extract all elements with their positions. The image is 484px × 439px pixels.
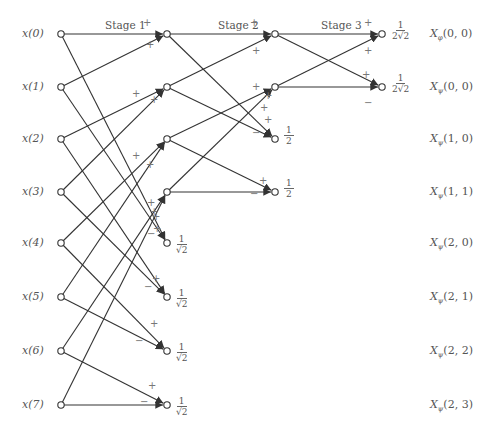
plus-sign: + <box>259 176 267 186</box>
fraction-numerator: 1 <box>396 74 406 84</box>
stage3-node-0 <box>379 31 385 37</box>
coefficient-indices: (2, 2) <box>443 344 473 357</box>
edge-s2-sum-b <box>167 36 271 87</box>
input-node-1 <box>58 84 64 90</box>
stage2-node-0 <box>272 31 278 37</box>
butterfly-diagram <box>0 0 484 439</box>
output-coefficient-label: Xφ(0, 0) <box>430 28 472 42</box>
signal-edges <box>61 34 378 405</box>
stage1-node-2 <box>164 136 170 142</box>
minus-sign: − <box>364 98 372 108</box>
stage2-node-1 <box>272 84 278 90</box>
coefficient-symbol: X <box>430 236 438 249</box>
plus-sign: + <box>264 91 272 101</box>
input-label: x(1) <box>22 81 44 92</box>
fraction-denominator: √2 <box>176 353 187 363</box>
input-node-0 <box>58 31 64 37</box>
fraction-numerator: 1 <box>177 289 187 299</box>
edge-s2-sum-b <box>167 90 272 192</box>
fraction-denominator: √2 <box>176 245 187 255</box>
stage1-node-7 <box>164 402 170 408</box>
stage2-node-2 <box>272 136 278 142</box>
input-node-5 <box>58 294 64 300</box>
fraction-numerator: 1 <box>177 343 187 353</box>
edge-s1-sum-a <box>61 89 163 139</box>
plus-sign: + <box>148 381 156 391</box>
coefficient-indices: (1, 0) <box>443 132 473 145</box>
coefficient-indices: (0, 0) <box>443 27 473 40</box>
plus-sign: + <box>250 18 258 28</box>
fraction-numerator: 1 <box>396 21 406 31</box>
stage-title: Stage 1 <box>105 20 146 31</box>
coefficient-symbol: X <box>430 80 438 93</box>
output-coefficient-label: Xψ(2, 2) <box>430 345 473 359</box>
scale-factor-inv-sqrt2: 1√2 <box>176 343 187 363</box>
plus-sign: + <box>152 274 160 284</box>
fraction-numerator: 1 <box>177 235 187 245</box>
input-label: x(5) <box>22 291 44 302</box>
minus-sign: − <box>252 128 260 138</box>
fraction-numerator: 1 <box>284 126 294 136</box>
stage1-node-0 <box>164 31 170 37</box>
fraction-denominator: 2 <box>286 136 292 146</box>
scale-factor-inv-2sqrt2: 12√2 <box>392 74 409 94</box>
coefficient-indices: (2, 1) <box>443 290 473 303</box>
input-node-4 <box>58 240 64 246</box>
coefficient-symbol: X <box>430 185 438 198</box>
output-coefficient-label: Xψ(1, 0) <box>430 133 473 147</box>
output-coefficient-label: Xψ(1, 1) <box>430 186 473 200</box>
plus-sign: + <box>132 89 140 99</box>
plus-sign: + <box>264 115 272 125</box>
minus-sign: − <box>140 397 148 407</box>
stage1-node-1 <box>164 84 170 90</box>
plus-sign: + <box>150 319 158 329</box>
plus-sign: + <box>260 103 268 113</box>
output-coefficient-label: Xψ(0, 0) <box>430 81 473 95</box>
input-label: x(2) <box>22 133 44 144</box>
edge-s2-diff-a <box>167 139 271 190</box>
fraction-denominator: 2√2 <box>392 84 409 94</box>
stage2-node-3 <box>272 189 278 195</box>
plus-sign: + <box>364 18 372 28</box>
coefficient-symbol: X <box>430 398 438 411</box>
coefficient-indices: (0, 0) <box>443 80 473 93</box>
plus-sign: + <box>152 212 160 222</box>
stage3-node-1 <box>379 84 385 90</box>
fraction-denominator: 2 <box>286 189 292 199</box>
scale-factor-inv-sqrt2: 1√2 <box>176 397 187 417</box>
input-node-7 <box>58 402 64 408</box>
edge-s1-diff-a <box>61 243 164 348</box>
input-node-6 <box>58 348 64 354</box>
coefficient-indices: (1, 1) <box>443 185 473 198</box>
minus-sign: − <box>135 336 143 346</box>
plus-sign: + <box>362 70 370 80</box>
scale-factor-half: 12 <box>284 126 294 146</box>
scale-factor-inv-sqrt2: 1√2 <box>176 289 187 309</box>
input-node-3 <box>58 189 64 195</box>
coefficient-symbol: X <box>430 132 438 145</box>
stage-title: Stage 3 <box>321 20 362 31</box>
stage1-node-4 <box>164 240 170 246</box>
coefficient-indices: (2, 0) <box>443 236 473 249</box>
edge-s1-diff-a <box>61 351 163 403</box>
input-label: x(0) <box>22 28 44 39</box>
fraction-numerator: 1 <box>177 397 187 407</box>
edge-s1-sum-b <box>61 90 164 192</box>
plus-sign: + <box>252 82 260 92</box>
plus-sign: + <box>252 46 260 56</box>
input-label: x(4) <box>22 237 44 248</box>
edge-s1-diff-b <box>61 297 163 349</box>
stage1-node-5 <box>164 294 170 300</box>
input-label: x(3) <box>22 186 44 197</box>
coefficient-indices: (2, 3) <box>443 398 473 411</box>
coefficient-symbol: X <box>430 290 438 303</box>
scale-factor-half: 12 <box>284 179 294 199</box>
plus-sign: + <box>146 160 154 170</box>
minus-sign: − <box>250 189 258 199</box>
output-coefficient-label: Xψ(2, 3) <box>430 399 473 413</box>
plus-sign: + <box>146 40 154 50</box>
plus-sign: + <box>143 18 151 28</box>
stage1-node-3 <box>164 189 170 195</box>
plus-sign: + <box>132 151 140 161</box>
stage1-node-6 <box>164 348 170 354</box>
